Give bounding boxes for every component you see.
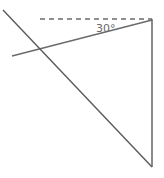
shallow-line [12,20,152,56]
geometry-diagram: 30° [0,0,164,178]
diagram-svg: 30° [0,0,164,178]
angle-label: 30° [96,22,116,35]
steep-line [3,10,152,167]
